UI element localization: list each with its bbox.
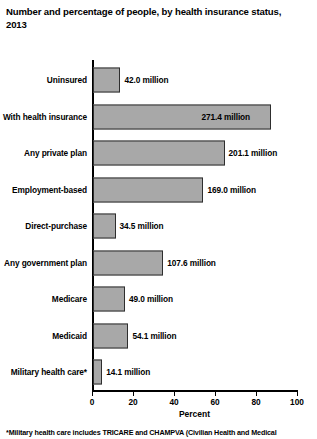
x-axis-tick <box>215 390 216 396</box>
bar-value-label: 201.1 million <box>229 148 278 158</box>
x-axis-tick-label: 40 <box>169 397 178 407</box>
bar-row: Employment-based169.0 million <box>0 172 317 209</box>
bar-category-label: Uninsured <box>0 75 87 85</box>
x-axis-tick-label: 60 <box>210 397 219 407</box>
bar <box>93 250 163 275</box>
bar-row: Any government plan107.6 million <box>0 245 317 282</box>
bar-category-label: Employment-based <box>0 185 87 195</box>
bar-value-label: 49.0 million <box>129 294 173 304</box>
chart-title: Number and percentage of people, by heal… <box>6 5 311 31</box>
chart-footnote: *Military health care includes TRICARE a… <box>6 428 317 437</box>
plot-area: Uninsured42.0 millionWith health insuran… <box>0 60 317 390</box>
bar <box>93 287 125 312</box>
bar-category-label: Medicare <box>0 294 87 304</box>
bar-value-label: 271.4 million <box>202 112 251 122</box>
x-axis-line <box>92 390 297 392</box>
x-axis-tick <box>256 390 257 396</box>
bar-category-label: Medicaid <box>0 331 87 341</box>
bar <box>93 177 203 202</box>
x-axis-tick <box>174 390 175 396</box>
bar <box>93 141 225 166</box>
x-axis-tick <box>92 390 93 396</box>
x-axis-tick-label: 100 <box>290 397 304 407</box>
x-axis-tick-label: 20 <box>128 397 137 407</box>
bar-value-label: 14.1 million <box>106 367 150 377</box>
chart-figure: Number and percentage of people, by heal… <box>0 0 317 439</box>
x-axis-tick-label: 0 <box>90 397 95 407</box>
bar <box>93 360 102 385</box>
bar <box>93 323 128 348</box>
bar-row: Direct-purchase34.5 million <box>0 208 317 245</box>
bar-value-label: 54.1 million <box>132 331 176 341</box>
bar-category-label: Any private plan <box>0 148 87 158</box>
bar-category-label: With health insurance <box>0 112 87 122</box>
bar-value-label: 169.0 million <box>207 185 256 195</box>
bar-row: Any private plan201.1 million <box>0 135 317 172</box>
bar-value-label: 107.6 million <box>167 258 216 268</box>
bar <box>93 214 116 239</box>
x-axis-title: Percent <box>92 409 297 419</box>
bar-value-label: 34.5 million <box>120 221 164 231</box>
bar-row: Medicare49.0 million <box>0 281 317 318</box>
bar <box>93 68 120 93</box>
bar-value-label: 42.0 million <box>124 75 168 85</box>
x-axis-tick-label: 80 <box>251 397 260 407</box>
bar-category-label: Direct-purchase <box>0 221 87 231</box>
bar-row: Medicaid54.1 million <box>0 318 317 355</box>
bar-category-label: Any government plan <box>0 258 87 268</box>
bar-row: With health insurance271.4 million <box>0 99 317 136</box>
bar-row: Military health care*14.1 million <box>0 354 317 391</box>
bar-row: Uninsured42.0 million <box>0 62 317 99</box>
x-axis-tick <box>133 390 134 396</box>
x-axis-tick <box>297 390 298 396</box>
bar-category-label: Military health care* <box>0 367 87 377</box>
